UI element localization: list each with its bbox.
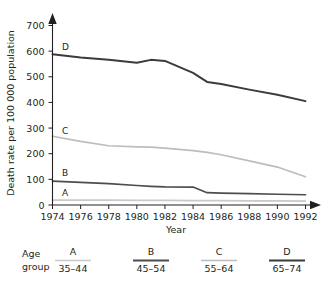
y-tick-marks (49, 26, 53, 206)
y-tick-label: 0 (38, 200, 44, 211)
legend: Age group A35–44B45–54C55–64D65–74 (22, 246, 305, 274)
line-chart-figure: 0100200300400500600700 19741976197819801… (0, 0, 335, 281)
x-tick-label: 1988 (237, 211, 261, 222)
x-axis (53, 201, 322, 209)
legend-key-a: A (70, 246, 77, 257)
y-tick-label: 500 (26, 71, 44, 82)
legend-range-c: 55–64 (205, 263, 234, 274)
y-tick-label: 200 (26, 148, 44, 159)
x-axis-title: Year (165, 224, 186, 235)
series-label-c: C (62, 126, 68, 136)
series-label-b: B (62, 168, 68, 178)
legend-range-b: 45–54 (137, 263, 166, 274)
x-tick-label: 1986 (209, 211, 233, 222)
y-axis (48, 13, 56, 205)
x-tick-label: 1976 (69, 211, 93, 222)
x-tick-label: 1984 (181, 211, 205, 222)
legend-range-d: 65–74 (273, 263, 302, 274)
x-tick-label: 1974 (40, 211, 64, 222)
series-label-d: D (62, 42, 69, 52)
y-tick-label: 100 (26, 174, 44, 185)
series-label-a: A (62, 188, 69, 198)
x-tick-marks (53, 205, 306, 209)
x-tick-label: 1992 (293, 211, 317, 222)
x-tick-labels: 1974197619781980198219841986198819901992 (40, 211, 317, 222)
y-axis-title: Death rate per 100 000 population (5, 30, 16, 196)
y-tick-label: 400 (26, 97, 44, 108)
legend-key-c: C (216, 246, 223, 257)
y-axis-arrowhead (48, 13, 56, 24)
y-tick-label: 600 (26, 46, 44, 57)
legend-entries: A35–44B45–54C55–64D65–74 (55, 246, 305, 274)
x-tick-label: 1990 (265, 211, 289, 222)
series-line-a (53, 200, 306, 201)
series-line-d (53, 54, 306, 101)
y-tick-label: 700 (26, 20, 44, 31)
legend-group-label-line2: group (22, 261, 50, 272)
legend-key-b: B (148, 246, 155, 257)
series-line-c (53, 136, 306, 177)
y-tick-labels: 0100200300400500600700 (26, 20, 44, 211)
legend-key-d: D (283, 246, 290, 257)
series-lines (53, 54, 306, 201)
y-tick-label: 300 (26, 123, 44, 134)
x-tick-label: 1980 (125, 211, 149, 222)
legend-range-a: 35–44 (59, 263, 88, 274)
x-tick-label: 1978 (97, 211, 121, 222)
legend-group-label-line1: Age (22, 248, 41, 259)
x-axis-arrowhead (310, 201, 321, 209)
chart-svg: 0100200300400500600700 19741976197819801… (0, 0, 335, 281)
x-tick-label: 1982 (153, 211, 177, 222)
series-line-b (53, 181, 306, 195)
